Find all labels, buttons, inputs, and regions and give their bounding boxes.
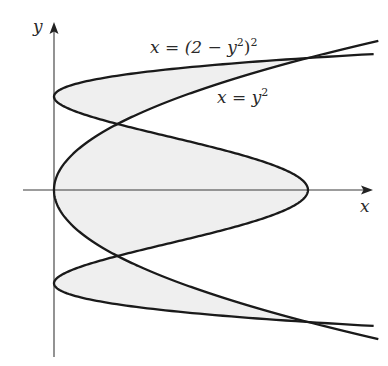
x-axis-label: x	[360, 196, 370, 216]
region-between-curves-diagram: y x x = (2 − y2)2 x = y2	[0, 0, 388, 366]
curve2-label: x = y2	[217, 86, 268, 107]
curve1-label-lhs: x = (2 − y	[150, 37, 237, 57]
y-axis-label: y	[32, 16, 43, 36]
curve1-label-sup1: 2	[237, 36, 244, 49]
curve1-label-rhs: )	[244, 37, 251, 57]
curve2-label-sup: 2	[261, 86, 268, 99]
curve1-label-sup2: 2	[250, 36, 257, 49]
curve1-label: x = (2 − y2)2	[150, 36, 257, 57]
curve2-label-lhs: x = y	[217, 87, 262, 107]
